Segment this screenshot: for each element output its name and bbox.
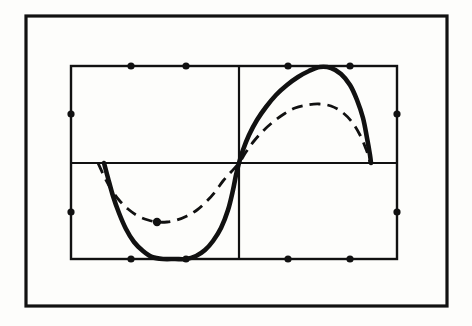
tick-dot-top [127, 62, 134, 69]
figure-canvas [0, 0, 472, 326]
dashed-curve-minimum-marker [153, 218, 161, 226]
tick-dot-bottom [127, 255, 134, 262]
tick-dot-left [67, 110, 74, 117]
tick-dot-top [284, 62, 291, 69]
figure-root [0, 0, 472, 326]
tick-dot-bottom [346, 255, 353, 262]
tick-dot-left [67, 208, 74, 215]
tick-dot-right [393, 208, 400, 215]
tick-dot-top [182, 62, 189, 69]
marker-point-group [153, 218, 161, 226]
tick-dot-bottom [284, 255, 291, 262]
tick-dot-top [346, 62, 353, 69]
tick-dot-right [393, 110, 400, 117]
